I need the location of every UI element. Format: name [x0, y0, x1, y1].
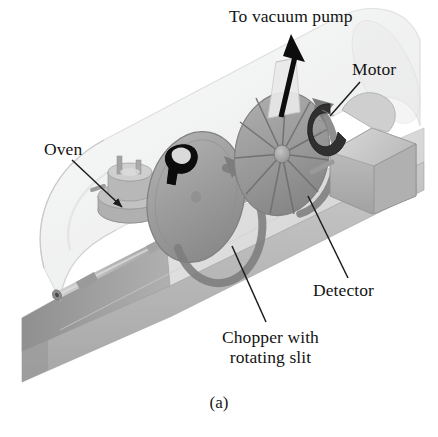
figure-caption: (a)	[0, 393, 438, 413]
label-chopper-with-rotating-slit: Chopper withrotating slit	[222, 328, 319, 368]
label-chopper-line2: rotating slit	[222, 348, 319, 368]
label-chopper-line1: Chopper with	[222, 327, 319, 347]
label-to-vacuum-pump: To vacuum pump	[229, 7, 353, 26]
label-detector: Detector	[313, 281, 374, 300]
label-oven: Oven	[44, 140, 82, 159]
label-motor: Motor	[352, 60, 396, 79]
figure-container: To vacuum pump Motor Oven Detector Chopp…	[0, 0, 438, 437]
